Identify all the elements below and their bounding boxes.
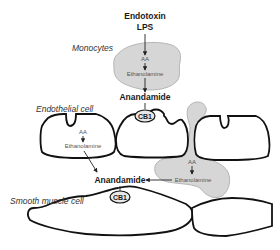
cb1-bottom-label: CB1: [113, 194, 127, 201]
anandamide-pathway-diagram: Endotoxin LPS Monocytes AA Ethanolamine …: [0, 0, 280, 250]
smooth-muscle-cell-right: [192, 198, 272, 236]
cb1-top-label: CB1: [138, 113, 152, 120]
endothelial-ethanolamine-label: Ethanolamine: [65, 143, 102, 149]
center-anandamide-label: Anandamide: [94, 175, 145, 185]
monocyte-aa-label: AA: [141, 56, 149, 62]
platelet-aa-label: AA: [188, 159, 196, 165]
monocytes-label: Monocytes: [72, 43, 114, 53]
endothelial-cell-right: [195, 116, 270, 160]
lps-label: LPS: [137, 22, 154, 32]
monocyte-shape: [114, 42, 181, 90]
platelet-ethanolamine-label: Ethanolamine: [175, 177, 212, 183]
endothelial-aa-label: AA: [79, 129, 87, 135]
monocyte-ethanolamine-label: Ethanolamine: [127, 71, 164, 77]
endotoxin-label: Endotoxin: [124, 11, 166, 21]
endothelial-cell-left: [41, 114, 116, 158]
smooth-muscle-cell-label: Smooth muscle cell: [10, 196, 85, 206]
endothelial-cell-label: Endothelial cell: [36, 104, 94, 114]
smooth-muscle-cell-left: [28, 187, 193, 236]
monocyte-anandamide-label: Anandamide: [119, 92, 170, 102]
